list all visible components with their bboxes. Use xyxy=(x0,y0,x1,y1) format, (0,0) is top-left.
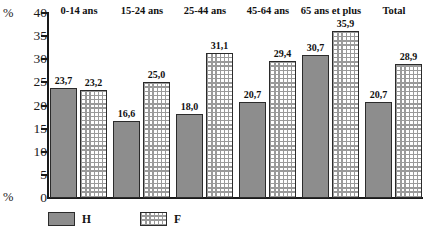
bar-group-0-14-ans: 0-14 ans 23,7 23,2 xyxy=(48,0,110,198)
bar-value-h: 20,7 xyxy=(370,90,388,100)
y-tick-label-5: 5 xyxy=(19,168,47,182)
group-label: 15-24 ans xyxy=(111,5,173,16)
bar-f[interactable]: 23,2 xyxy=(80,90,107,198)
bar-group-15-24-ans: 15-24 ans 16,6 25,0 xyxy=(111,0,173,198)
bar-value-f: 35,9 xyxy=(337,19,355,29)
bar-group-total: Total 20,7 28,9 xyxy=(363,0,425,198)
solid-gray-swatch-icon xyxy=(48,212,75,226)
legend-label-f: F xyxy=(174,213,181,225)
group-label: 45-64 ans xyxy=(237,5,299,16)
bar-h[interactable]: 20,7 xyxy=(365,102,392,198)
y-tick-label-15: 15 xyxy=(19,122,47,136)
bar-value-h: 20,7 xyxy=(244,90,262,100)
bar-f[interactable]: 29,4 xyxy=(269,61,296,198)
bar-h[interactable]: 30,7 xyxy=(302,55,329,198)
chart-legend: H F xyxy=(0,212,428,236)
group-label: Total xyxy=(363,5,425,16)
group-label: 65 ans et plus xyxy=(300,5,362,16)
bar-value-h: 18,0 xyxy=(181,102,199,112)
bar-f[interactable]: 25,0 xyxy=(143,82,170,198)
bar-value-h: 16,6 xyxy=(118,109,136,119)
bar-value-f: 28,9 xyxy=(400,52,418,62)
bar-group-25-44-ans: 25-44 ans 18,0 31,1 xyxy=(174,0,236,198)
bar-value-h: 30,7 xyxy=(307,43,325,53)
y-axis-unit-bottom: % xyxy=(3,191,13,204)
legend-label-h: H xyxy=(82,213,91,225)
legend-item-h[interactable]: H xyxy=(48,212,91,226)
y-tick-label-25: 25 xyxy=(19,75,47,89)
bar-group-45-64-ans: 45-64 ans 20,7 29,4 xyxy=(237,0,299,198)
legend-item-f[interactable]: F xyxy=(140,212,181,226)
y-tick-label-20: 20 xyxy=(19,99,47,113)
bar-value-f: 31,1 xyxy=(211,41,229,51)
y-tick-label-10: 10 xyxy=(19,145,47,159)
y-tick-label-40: 40 xyxy=(19,6,47,20)
bar-chart: % % 40 35 30 25 20 15 10 5 0 0-14 ans 23… xyxy=(0,0,428,241)
bar-value-f: 23,2 xyxy=(85,78,103,88)
dotted-pattern-swatch-icon xyxy=(140,212,167,226)
bar-group-65-ans-et-plus: 65 ans et plus 30,7 35,9 xyxy=(300,0,362,198)
bar-h[interactable]: 16,6 xyxy=(113,121,140,198)
y-tick-label-30: 30 xyxy=(19,52,47,66)
bar-f[interactable]: 28,9 xyxy=(395,64,422,198)
bar-h[interactable]: 18,0 xyxy=(176,114,203,198)
bar-f[interactable]: 35,9 xyxy=(332,31,359,198)
bar-value-f: 25,0 xyxy=(148,70,166,80)
y-tick-label-0: 0 xyxy=(19,191,47,205)
bar-h[interactable]: 23,7 xyxy=(50,88,77,198)
bar-value-h: 23,7 xyxy=(55,76,73,86)
group-label: 25-44 ans xyxy=(174,5,236,16)
bar-value-f: 29,4 xyxy=(274,49,292,59)
bar-f[interactable]: 31,1 xyxy=(206,53,233,198)
y-tick-label-35: 35 xyxy=(19,29,47,43)
y-axis-unit-top: % xyxy=(3,7,13,20)
bar-h[interactable]: 20,7 xyxy=(239,102,266,198)
group-label: 0-14 ans xyxy=(48,5,110,16)
